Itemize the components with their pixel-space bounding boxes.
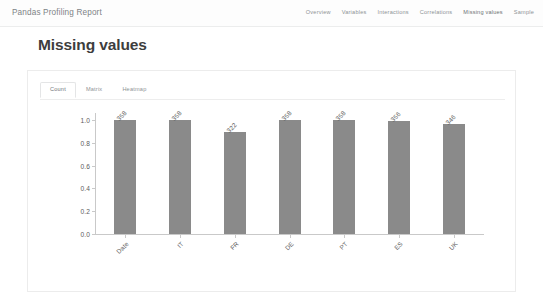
tab-count[interactable]: Count: [40, 82, 76, 98]
bar-date[interactable]: [114, 120, 136, 234]
missing-values-page: Pandas Profiling Report OverviewVariable…: [0, 0, 543, 300]
y-axis-tick-label: 0.2: [68, 208, 90, 215]
page-title: Missing values: [38, 36, 147, 54]
nav-link-variables[interactable]: Variables: [342, 9, 367, 15]
x-axis-tick-mark: [125, 235, 126, 238]
x-axis-tick-mark: [454, 235, 455, 238]
tab-bar-underline: [40, 99, 505, 100]
x-axis-label-de: DE: [261, 240, 294, 273]
nav-link-correlations[interactable]: Correlations: [420, 9, 453, 15]
x-axis-label-fr: FR: [206, 240, 239, 273]
y-axis-tick-mark: [92, 188, 95, 189]
nav-link-overview[interactable]: Overview: [306, 9, 331, 15]
y-axis-tick-mark: [92, 120, 95, 121]
x-axis-tick-mark: [235, 235, 236, 238]
x-axis-label-date: Date: [97, 240, 130, 273]
nav-link-missing-values[interactable]: Missing values: [463, 9, 502, 15]
y-axis-tick-mark: [92, 211, 95, 212]
y-axis-tick-label: 1.0: [68, 117, 90, 124]
bar-pt[interactable]: [333, 120, 355, 234]
y-axis-tick-mark: [92, 166, 95, 167]
x-axis-label-es: ES: [371, 240, 404, 273]
bar-uk[interactable]: [443, 124, 465, 234]
nav-link-sample[interactable]: Sample: [514, 9, 534, 15]
navbar-links: OverviewVariablesInteractionsCorrelation…: [306, 9, 534, 15]
x-axis-tick-mark: [290, 235, 291, 238]
nav-link-interactions[interactable]: Interactions: [377, 9, 408, 15]
x-axis-label-uk: UK: [425, 240, 458, 273]
missing-values-bar-chart: 0.00.20.40.60.81.0358Date358IT322FR358DE…: [28, 101, 516, 292]
tab-heatmap[interactable]: Heatmap: [112, 82, 156, 98]
x-axis-label-pt: PT: [316, 240, 349, 273]
y-axis-tick-label: 0.6: [68, 162, 90, 169]
y-axis-line: [95, 113, 96, 234]
report-brand-title: Pandas Profiling Report: [12, 8, 102, 17]
x-axis-tick-mark: [344, 235, 345, 238]
bar-es[interactable]: [388, 121, 410, 234]
y-axis-tick-mark: [92, 143, 95, 144]
x-axis-label-it: IT: [152, 240, 185, 273]
chart-tab-bar: CountMatrixHeatmap: [40, 82, 156, 98]
x-axis-tick-mark: [399, 235, 400, 238]
bar-de[interactable]: [279, 120, 301, 234]
y-axis-tick-label: 0.8: [68, 139, 90, 146]
bar-fr[interactable]: [224, 132, 246, 234]
y-axis-tick-mark: [92, 234, 95, 235]
bar-it[interactable]: [169, 120, 191, 234]
y-axis-tick-label: 0.0: [68, 231, 90, 238]
y-axis-tick-label: 0.4: [68, 185, 90, 192]
top-navbar: Pandas Profiling Report OverviewVariable…: [0, 0, 543, 27]
missing-values-card: CountMatrixHeatmap 0.00.20.40.60.81.0358…: [27, 70, 516, 292]
tab-matrix[interactable]: Matrix: [76, 82, 112, 98]
x-axis-tick-mark: [180, 235, 181, 238]
